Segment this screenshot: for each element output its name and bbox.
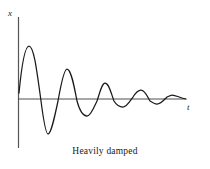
x-axis-label: t	[187, 103, 190, 112]
damped-oscillation-figure: x t Heavily damped	[0, 0, 210, 169]
figure-caption: Heavily damped	[0, 146, 210, 156]
y-axis-label: x	[8, 9, 12, 18]
plot-area	[0, 0, 210, 169]
damped-wave-curve	[19, 46, 186, 134]
